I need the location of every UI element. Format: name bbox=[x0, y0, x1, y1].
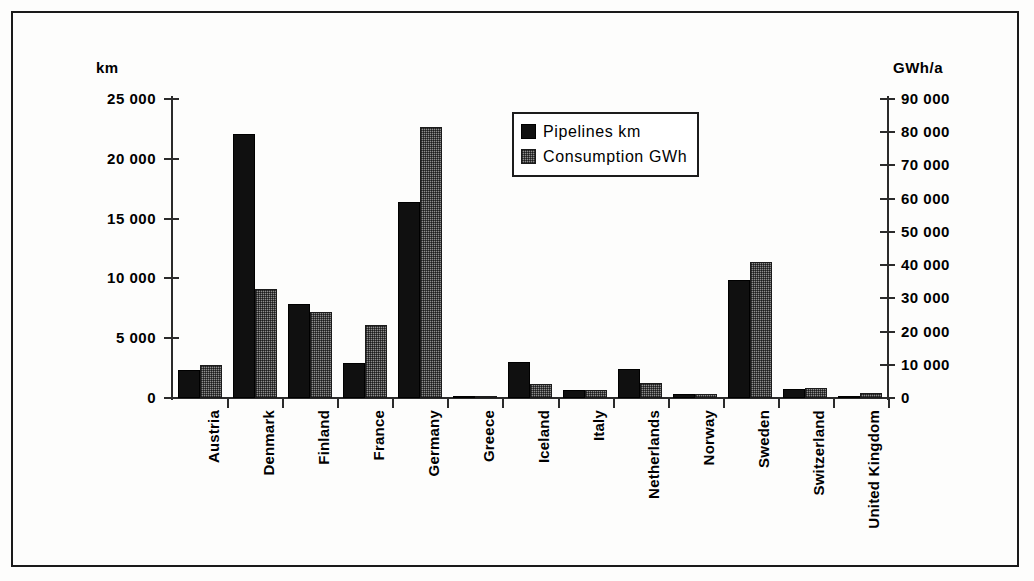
category-tick bbox=[227, 399, 229, 408]
category-label-switzerland: Switzerland bbox=[811, 410, 826, 496]
category-tick bbox=[833, 399, 835, 408]
bar-consumption-gwh bbox=[310, 312, 332, 398]
bar-consumption-gwh bbox=[750, 262, 772, 398]
legend-item-consumption: Consumption GWh bbox=[521, 144, 687, 169]
bar-consumption-gwh bbox=[420, 127, 442, 398]
category-label-finland: Finland bbox=[316, 410, 331, 465]
chart-legend: Pipelines km Consumption GWh bbox=[512, 112, 699, 177]
bar-consumption-gwh bbox=[860, 393, 882, 398]
category-label-germany: Germany bbox=[426, 410, 441, 476]
legend-item-pipelines: Pipelines km bbox=[521, 119, 687, 144]
category-label-netherlands: Netherlands bbox=[646, 410, 661, 499]
category-tick bbox=[392, 399, 394, 408]
category-tick bbox=[888, 399, 890, 408]
category-label-greece: Greece bbox=[481, 410, 496, 462]
bar-consumption-gwh bbox=[640, 383, 662, 398]
bar-pipelines-km bbox=[233, 134, 255, 398]
legend-label-consumption: Consumption GWh bbox=[543, 149, 687, 165]
legend-label-pipelines: Pipelines km bbox=[543, 124, 641, 140]
bar-pipelines-km bbox=[673, 394, 695, 398]
bar-pipelines-km bbox=[728, 280, 750, 398]
category-tick bbox=[447, 399, 449, 408]
bar-consumption-gwh bbox=[805, 388, 827, 398]
category-tick bbox=[337, 399, 339, 408]
bar-consumption-gwh bbox=[585, 390, 607, 398]
bar-pipelines-km bbox=[343, 363, 365, 398]
category-label-italy: Italy bbox=[591, 410, 606, 441]
category-label-sweden: Sweden bbox=[756, 410, 771, 468]
bar-pipelines-km bbox=[618, 369, 640, 398]
category-tick bbox=[502, 399, 504, 408]
bar-pipelines-km bbox=[508, 362, 530, 398]
bar-consumption-gwh bbox=[200, 365, 222, 398]
bar-pipelines-km bbox=[783, 389, 805, 398]
bar-consumption-gwh bbox=[530, 384, 552, 398]
category-tick bbox=[613, 399, 615, 408]
bar-consumption-gwh bbox=[365, 325, 387, 398]
bar-consumption-gwh bbox=[695, 394, 717, 398]
bar-pipelines-km bbox=[288, 304, 310, 398]
bar-pipelines-km bbox=[563, 390, 585, 398]
bar-pipelines-km bbox=[178, 370, 200, 398]
legend-swatch-consumption-icon bbox=[521, 149, 536, 164]
bar-consumption-gwh bbox=[255, 289, 277, 398]
category-label-austria: Austria bbox=[206, 410, 221, 463]
bar-consumption-gwh bbox=[475, 396, 497, 398]
category-tick bbox=[558, 399, 560, 408]
category-label-norway: Norway bbox=[701, 410, 716, 465]
bar-pipelines-km bbox=[453, 396, 475, 398]
category-tick bbox=[282, 399, 284, 408]
category-label-france: France bbox=[371, 410, 386, 460]
category-label-united-kingdom: United Kingdom bbox=[866, 410, 881, 529]
chart-figure: km GWh/a 05 00010 00015 00020 00025 000 … bbox=[0, 0, 1034, 581]
category-label-iceland: Iceland bbox=[536, 410, 551, 463]
bar-pipelines-km bbox=[398, 202, 420, 398]
legend-swatch-pipelines-icon bbox=[521, 124, 536, 139]
category-tick bbox=[668, 399, 670, 408]
category-label-denmark: Denmark bbox=[261, 410, 276, 476]
bar-pipelines-km bbox=[838, 396, 860, 398]
category-tick bbox=[778, 399, 780, 408]
category-tick bbox=[723, 399, 725, 408]
